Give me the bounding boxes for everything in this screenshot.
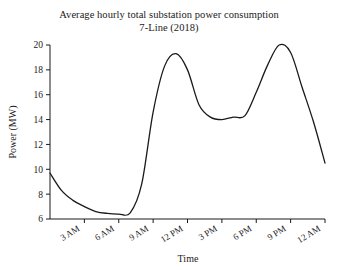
y-axis-label: Power (MW) (7, 105, 19, 158)
data-series-line (50, 44, 325, 215)
y-tick-label: 6 (38, 214, 43, 224)
y-tick-label: 18 (34, 65, 44, 75)
y-tick-label: 14 (34, 115, 44, 125)
y-tick-label: 16 (34, 90, 44, 100)
x-tick-label: 9 AM (127, 223, 150, 242)
y-tick-label: 12 (34, 140, 44, 150)
x-tick-label: 6 AM (93, 223, 116, 242)
x-tick-label: 6 PM (231, 223, 253, 242)
x-axis-ticks: 3 AM6 AM9 AM12 PM3 PM6 PM9 PM12 AM (59, 219, 325, 245)
x-tick-label: 9 PM (266, 223, 288, 242)
y-axis: 68101214161820 (34, 40, 51, 224)
chart-figure: Average hourly total substation power co… (0, 0, 338, 270)
y-tick-label: 20 (34, 40, 44, 50)
x-tick-label: 12 PM (159, 223, 185, 244)
y-tick-label: 8 (38, 190, 43, 200)
line-chart-plot: 68101214161820 3 AM6 AM9 AM12 PM3 PM6 PM… (0, 0, 338, 270)
x-tick-label: 3 AM (59, 223, 82, 242)
x-axis: 3 AM6 AM9 AM12 PM3 PM6 PM9 PM12 AM (50, 219, 325, 245)
x-tick-label: 3 PM (197, 223, 219, 242)
x-axis-label: Time (178, 253, 199, 264)
x-tick-label: 12 AM (295, 223, 322, 245)
y-tick-label: 10 (34, 165, 44, 175)
y-axis-ticks: 68101214161820 (34, 40, 51, 224)
